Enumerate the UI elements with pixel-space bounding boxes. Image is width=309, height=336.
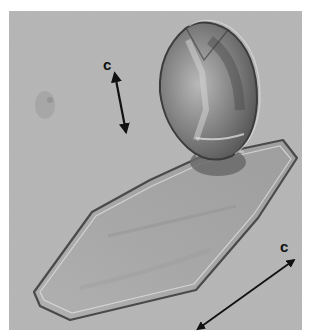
c-axis-label-upper: c <box>103 56 111 73</box>
debris-speck <box>35 91 55 119</box>
micrograph: c c <box>0 0 309 336</box>
c-axis-label-lower: c <box>280 238 288 255</box>
